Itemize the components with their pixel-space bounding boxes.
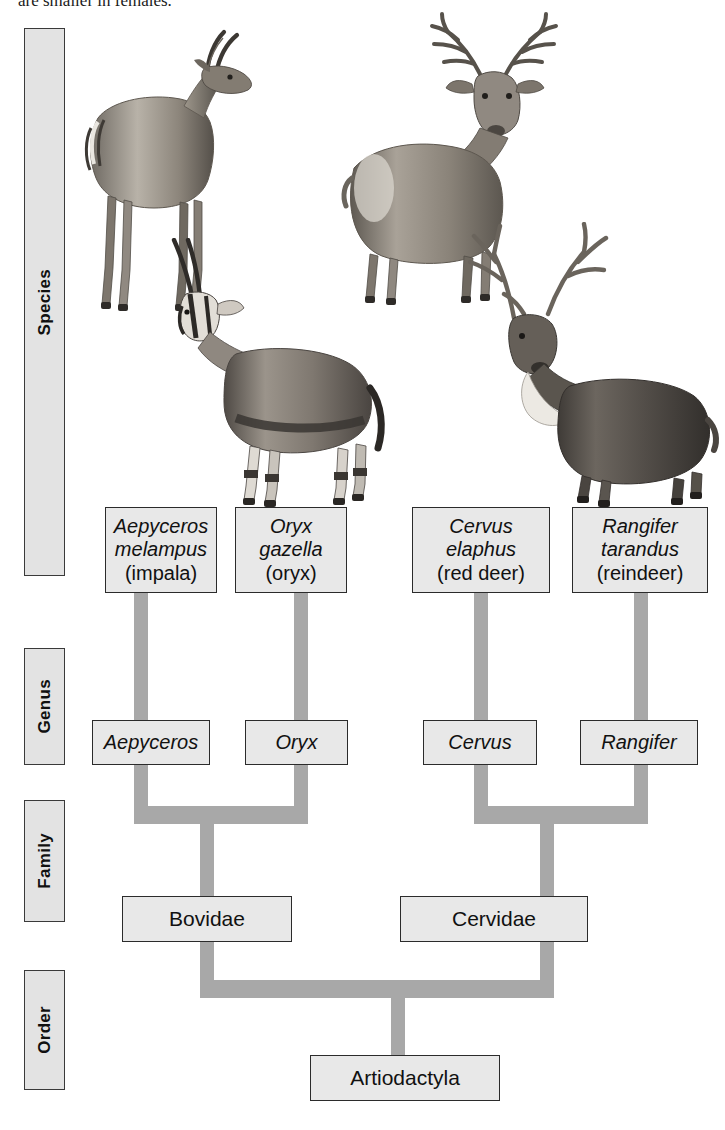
genus-label-2: Oryx [275, 731, 317, 754]
species-common-1: (impala) [125, 562, 197, 585]
genus-label-4: Rangifer [601, 731, 677, 754]
node-family-cervidae[interactable]: Cervidae [400, 896, 588, 942]
rank-label-family: Family [35, 833, 55, 889]
species-epithet-4: tarandus [601, 538, 679, 561]
node-species-rangifer-tarandus[interactable]: Rangifer tarandus (reindeer) [572, 507, 708, 593]
connector-cervidae-crossbar [474, 806, 648, 824]
connector-order-crossbar [200, 980, 554, 998]
genus-label-3: Cervus [448, 731, 511, 754]
node-species-cervus-elaphus[interactable]: Cervus elaphus (red deer) [412, 507, 550, 593]
rank-label-order: Order [35, 1006, 55, 1054]
connector-species-to-genus-oryx [294, 590, 308, 724]
node-genus-rangifer[interactable]: Rangifer [580, 720, 698, 765]
species-genus-1: Aepyceros [114, 515, 209, 538]
connector-cervidae-stem [540, 806, 554, 900]
species-epithet-2: gazella [259, 538, 322, 561]
species-genus-2: Oryx [270, 515, 312, 538]
node-genus-cervus[interactable]: Cervus [423, 720, 537, 765]
taxonomy-figure: are smaller in females. Species Genus Fa… [0, 0, 725, 1130]
species-common-3: (red deer) [437, 562, 525, 585]
rank-bar-genus: Genus [24, 648, 65, 765]
node-species-oryx-gazella[interactable]: Oryx gazella (oryx) [235, 507, 347, 593]
species-common-2: (oryx) [265, 562, 316, 585]
genus-label-1: Aepyceros [104, 731, 199, 754]
connector-species-to-genus-cervus [474, 590, 488, 724]
species-genus-4: Rangifer [602, 515, 678, 538]
species-epithet-1: melampus [115, 538, 207, 561]
species-common-4: (reindeer) [597, 562, 684, 585]
connector-bovidae-crossbar [134, 806, 308, 824]
node-genus-aepyceros[interactable]: Aepyceros [92, 720, 210, 765]
rank-label-genus: Genus [35, 679, 55, 733]
node-order-artiodactyla[interactable]: Artiodactyla [310, 1055, 500, 1101]
family-label-1: Bovidae [169, 907, 245, 932]
species-epithet-3: elaphus [446, 538, 516, 561]
node-species-aepyceros-melampus[interactable]: Aepyceros melampus (impala) [105, 507, 217, 593]
connector-species-to-genus-aepyceros [134, 590, 148, 724]
rank-bar-family: Family [24, 800, 65, 922]
node-family-bovidae[interactable]: Bovidae [122, 896, 292, 942]
connector-order-stem [391, 980, 405, 1058]
top-caption-text: are smaller in females. [18, 0, 418, 7]
connector-bovidae-stem [200, 806, 214, 900]
rank-label-species: Species [35, 269, 55, 335]
illustration-oryx [138, 238, 398, 508]
page-bottom-edge [0, 1120, 725, 1130]
family-label-2: Cervidae [452, 907, 536, 932]
order-label: Artiodactyla [350, 1066, 460, 1091]
node-genus-oryx[interactable]: Oryx [245, 720, 348, 765]
connector-species-to-genus-rangifer [634, 590, 648, 724]
rank-bar-order: Order [24, 970, 65, 1090]
species-genus-3: Cervus [449, 515, 512, 538]
illustration-reindeer [452, 222, 722, 507]
